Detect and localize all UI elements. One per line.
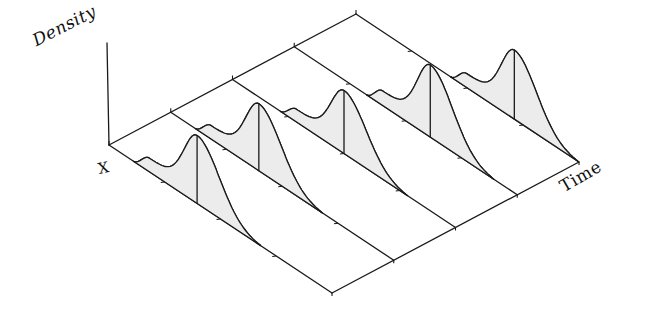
x-tick bbox=[464, 88, 468, 89]
waterfall-plot bbox=[0, 0, 653, 314]
x-tick bbox=[340, 154, 344, 155]
x-tick bbox=[272, 256, 276, 257]
density-waterfall-diagram: Density X Time bbox=[0, 0, 653, 314]
x-tick bbox=[519, 125, 523, 126]
x-tick bbox=[396, 191, 400, 192]
x-tick bbox=[223, 149, 227, 150]
x-tick bbox=[278, 186, 282, 187]
x-tick bbox=[346, 84, 350, 85]
density-axis bbox=[107, 43, 109, 145]
x-tick bbox=[161, 182, 165, 183]
x-tick bbox=[408, 51, 412, 52]
x-tick bbox=[284, 117, 288, 118]
x-tick bbox=[334, 223, 338, 224]
x-tick bbox=[458, 158, 462, 159]
x-tick bbox=[402, 121, 406, 122]
x-tick bbox=[217, 219, 221, 220]
